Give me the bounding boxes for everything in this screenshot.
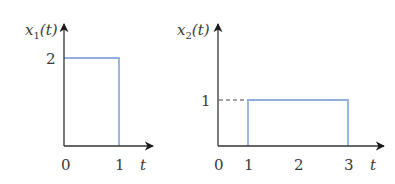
x2-xlabel: t [370,156,377,174]
x2-xtick-0: 0 [214,156,224,174]
x1-xtick-1: 1 [115,156,125,174]
x2-ytick-1: 1 [201,92,211,110]
x2-ylabel: x2(t) [177,21,210,41]
x1-xlabel: t [140,156,147,174]
x1-ylabel: x1(t) [25,21,58,41]
x1-ytick-2: 2 [46,50,56,68]
x1-pulse [64,58,119,146]
x2-xtick-1: 1 [244,156,254,174]
x2-pulse [248,100,348,146]
x2-xtick-3: 3 [344,156,354,174]
plot-x1: x1(t) 2 0 1 t [25,21,153,174]
x1-xtick-0: 0 [61,156,71,174]
x2-xtick-2: 2 [294,156,304,174]
plot-x2: x2(t) 1 0 1 2 3 t [177,21,384,174]
signal-plots: x1(t) 2 0 1 t x2(t) 1 0 1 2 3 t [0,0,395,184]
